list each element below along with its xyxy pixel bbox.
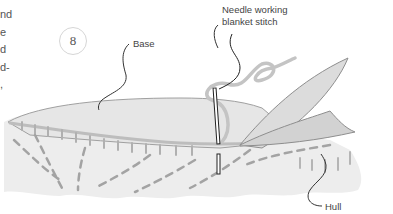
- label-base: Base: [133, 38, 155, 50]
- thread-dark: [219, 34, 240, 89]
- label-needle-working: Needle working blanket stitch: [222, 4, 287, 28]
- label-needle-line2: blanket stitch: [222, 16, 287, 28]
- label-needle-line1: Needle working: [222, 4, 287, 16]
- basket-stitching-illustration: [0, 0, 393, 214]
- needle-leader-line: [214, 25, 218, 48]
- label-hull: Hull: [325, 201, 341, 213]
